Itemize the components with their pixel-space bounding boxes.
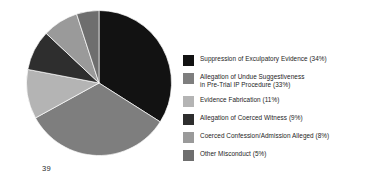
legend-label: Other Misconduct (5%) (200, 149, 266, 158)
pie-chart-graphic (26, 10, 172, 156)
pie-svg (26, 10, 172, 156)
legend-swatch (183, 114, 194, 125)
legend-item: Allegation of Undue Suggestiveness in Pr… (183, 72, 371, 89)
legend-swatch (183, 132, 194, 143)
pie-slice-group (26, 11, 171, 156)
legend-swatch (183, 73, 194, 84)
page-number: 39 (42, 164, 51, 173)
legend-label: Suppression of Exculpatory Evidence (34%… (200, 54, 327, 63)
legend-swatch (183, 96, 194, 107)
pie-chart-figure: Suppression of Exculpatory Evidence (34%… (0, 0, 373, 188)
legend-label: Evidence Fabrication (11%) (200, 95, 279, 104)
legend-label: Allegation of Undue Suggestiveness in Pr… (200, 72, 304, 89)
legend-item: Allegation of Coerced Witness (9%) (183, 113, 371, 125)
legend-swatch (183, 150, 194, 161)
legend-item: Coerced Confession/Admission Alleged (8%… (183, 131, 371, 143)
legend-item: Suppression of Exculpatory Evidence (34%… (183, 54, 371, 66)
chart-legend: Suppression of Exculpatory Evidence (34%… (183, 54, 371, 161)
legend-swatch (183, 55, 194, 66)
legend-item: Evidence Fabrication (11%) (183, 95, 371, 107)
legend-label: Coerced Confession/Admission Alleged (8%… (200, 131, 329, 140)
legend-item: Other Misconduct (5%) (183, 149, 371, 161)
legend-label: Allegation of Coerced Witness (9%) (200, 113, 303, 122)
